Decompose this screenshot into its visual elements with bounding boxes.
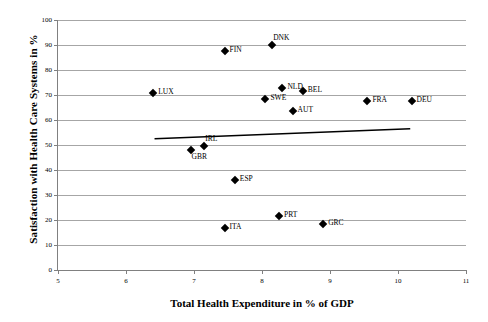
x-tick-mark <box>194 270 195 274</box>
y-tick-label: 80 <box>45 67 52 74</box>
scatter-chart-figure: Satisfaction with Health Care Systems in… <box>0 0 488 322</box>
diamond-marker-icon <box>268 41 276 49</box>
y-tick-mark <box>54 45 58 46</box>
y-tick-mark <box>54 170 58 171</box>
x-tick-mark <box>58 270 59 274</box>
diamond-marker-icon <box>231 176 239 184</box>
y-tick-label: 50 <box>45 142 52 149</box>
gridline <box>58 170 466 171</box>
data-point-label: LUX <box>158 88 173 96</box>
diamond-marker-icon <box>220 47 228 55</box>
gridline <box>58 145 466 146</box>
x-tick-label: 11 <box>463 277 470 285</box>
y-tick-label: 10 <box>45 242 52 249</box>
gridline <box>58 70 466 71</box>
diamond-marker-icon <box>407 97 415 105</box>
y-tick-mark <box>54 145 58 146</box>
y-tick-label: 40 <box>45 167 52 174</box>
data-point-label: FIN <box>230 46 242 54</box>
gridline <box>58 45 466 46</box>
y-tick-label: 30 <box>45 192 52 199</box>
gridline <box>58 20 466 21</box>
data-point-label: BEL <box>308 86 322 94</box>
data-point-label: SWE <box>270 94 286 102</box>
diamond-marker-icon <box>200 142 208 150</box>
y-tick-mark <box>54 245 58 246</box>
y-axis-title: Satisfaction with Health Care Systems in… <box>27 14 39 264</box>
x-tick-mark <box>330 270 331 274</box>
data-point-label: GBR <box>192 153 207 161</box>
x-tick-label: 8 <box>260 277 264 285</box>
gridline <box>58 195 466 196</box>
y-tick-mark <box>54 220 58 221</box>
y-tick-label: 70 <box>45 92 52 99</box>
x-tick-label: 6 <box>124 277 128 285</box>
y-tick-mark <box>54 20 58 21</box>
diamond-marker-icon <box>363 97 371 105</box>
data-point-label: ITA <box>230 223 242 231</box>
x-tick-mark <box>126 270 127 274</box>
x-tick-label: 7 <box>192 277 196 285</box>
y-tick-label: 60 <box>45 117 52 124</box>
y-tick-mark <box>54 95 58 96</box>
data-point-label: DEU <box>417 96 432 104</box>
x-tick-mark <box>466 270 467 274</box>
y-tick-label: 0 <box>49 267 53 274</box>
diamond-marker-icon <box>220 223 228 231</box>
x-tick-label: 5 <box>56 277 60 285</box>
x-axis-title: Total Health Expenditure in % of GDP <box>58 297 466 309</box>
y-tick-mark <box>54 70 58 71</box>
y-tick-mark <box>54 195 58 196</box>
y-tick-label: 90 <box>45 42 52 49</box>
x-tick-mark <box>262 270 263 274</box>
data-point-label: GRC <box>328 219 343 227</box>
diamond-marker-icon <box>278 83 286 91</box>
diamond-marker-icon <box>288 107 296 115</box>
gridline <box>58 220 466 221</box>
data-point-label: DNK <box>273 34 289 42</box>
data-point-label: AUT <box>298 106 313 114</box>
x-tick-label: 9 <box>328 277 332 285</box>
data-point-label: PRT <box>284 211 297 219</box>
data-point-label: ESP <box>240 175 253 183</box>
gridline <box>58 245 466 246</box>
data-point-label: IRL <box>205 135 217 143</box>
y-tick-label: 20 <box>45 217 52 224</box>
y-tick-mark <box>54 120 58 121</box>
data-point-label: FRA <box>372 96 387 104</box>
x-tick-label: 10 <box>395 277 402 285</box>
plot-area: 0102030405060708090100 567891011 DNKFINN… <box>58 20 466 270</box>
x-tick-mark <box>398 270 399 274</box>
gridline <box>58 120 466 121</box>
y-tick-label: 100 <box>42 17 53 24</box>
